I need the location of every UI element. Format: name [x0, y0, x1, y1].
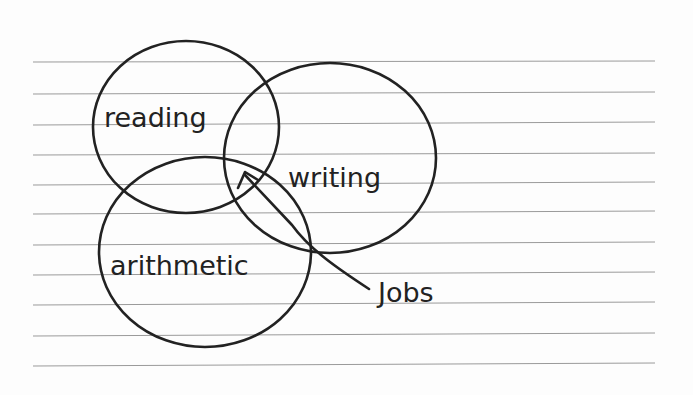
reading-label: reading	[104, 102, 207, 133]
lined-paper: reading writing arithmetic Jobs	[0, 0, 693, 395]
writing-label: writing	[288, 162, 381, 193]
arithmetic-label: arithmetic	[110, 250, 249, 281]
writing-circle	[224, 63, 436, 253]
jobs-label: Jobs	[376, 277, 434, 308]
venn-diagram: reading writing arithmetic Jobs	[0, 0, 693, 395]
